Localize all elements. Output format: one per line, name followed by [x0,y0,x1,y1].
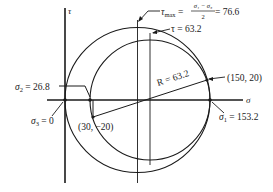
sigma3-label: σ3 = 0 [31,116,54,127]
sigma-axis-label: σ [246,95,251,105]
sigma3-leader [52,102,63,116]
point-b-marker [91,115,94,118]
tau-max-denominator: 2 [201,13,204,20]
sigma2-leader [59,86,90,97]
tau-max-label: τmax = [161,7,183,18]
sigma2-marker [88,98,92,102]
tau-arrowhead [152,30,157,34]
point-a-label: (150, 20) [227,73,262,84]
point-b-label: (30, −20) [78,122,113,133]
tau-max-value: = 76.6 [215,7,240,17]
point-a-arrowhead [208,77,213,81]
tau-axis-label: τ [68,6,72,16]
mohr-circle-diagram: τ σ σ2 = 26.8 σ3 = 0 (30, −20) σ1 = 153.… [0,0,273,192]
tau-max-numerator: σ₁ − σ₃ [194,2,213,9]
sigma1-label: σ1 = 153.2 [219,112,259,123]
sigma2-label: σ2 = 26.8 [15,82,50,93]
point-a-marker [205,78,208,81]
sigma1-marker [208,98,212,102]
sigma3-marker [63,98,67,102]
tau-label: τ = 63.2 [171,24,202,34]
radius-label: R = 63.2 [156,68,191,88]
